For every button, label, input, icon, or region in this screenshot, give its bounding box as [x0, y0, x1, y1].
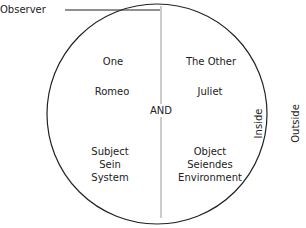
sein-label: Sein — [80, 158, 140, 171]
system-label: System — [80, 171, 140, 184]
subject-label: Subject — [80, 145, 140, 158]
outside-label: Outside — [290, 94, 301, 154]
environment-label: Environment — [168, 171, 252, 184]
object-label: Object — [168, 145, 252, 158]
left-bottom-group: Subject Sein System — [80, 145, 140, 184]
left-middle-label: Romeo — [82, 85, 142, 98]
right-top-label: The Other — [176, 55, 246, 68]
observer-label: Observer — [0, 3, 46, 16]
left-top-label: One — [88, 55, 138, 68]
and-label: AND — [144, 104, 178, 117]
right-middle-label: Juliet — [180, 85, 240, 98]
inside-label: Inside — [253, 99, 264, 149]
right-bottom-group: Object Seiendes Environment — [168, 145, 252, 184]
seiendes-label: Seiendes — [168, 158, 252, 171]
